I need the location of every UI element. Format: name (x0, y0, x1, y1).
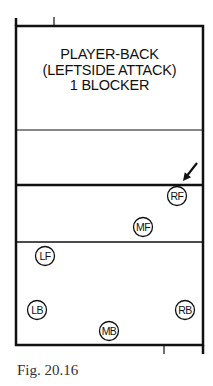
player-label: LB (31, 304, 43, 316)
player-mb: MB (100, 322, 119, 341)
player-label: MB (102, 325, 117, 337)
title-line-3: 1 BLOCKER (16, 78, 203, 94)
player-markers: RFMFLFLBRBMB (28, 187, 195, 341)
player-label: LF (39, 250, 50, 262)
figure-caption: Fig. 20.16 (17, 362, 78, 379)
player-rf: RF (168, 187, 187, 206)
diagram-title: PLAYER-BACK (LEFTSIDE ATTACK) 1 BLOCKER (16, 47, 203, 94)
volleyball-court-diagram: RFMFLFLBRBMB PLAYER-BACK (LEFTSIDE ATTAC… (0, 0, 213, 386)
player-label: RF (171, 190, 184, 202)
player-mf: MF (134, 218, 153, 237)
player-lf: LF (36, 247, 55, 266)
player-label: RB (178, 304, 192, 316)
title-line-1: PLAYER-BACK (16, 47, 203, 63)
player-lb: LB (28, 301, 47, 320)
arrow-icon (183, 163, 197, 181)
player-rb: RB (176, 301, 195, 320)
player-label: MF (136, 221, 150, 233)
title-line-2: (LEFTSIDE ATTACK) (16, 63, 203, 79)
